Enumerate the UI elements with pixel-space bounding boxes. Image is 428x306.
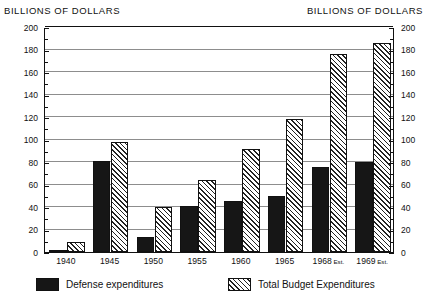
- y-axis-label-left-120: 120: [0, 114, 38, 123]
- tick-left-10: [44, 242, 48, 243]
- tick-left-80: [44, 163, 49, 164]
- bar-total-budget-1940: [67, 242, 85, 252]
- x-axis-label-1950: 1950: [132, 257, 176, 266]
- plot-area: [44, 28, 394, 253]
- legend-swatch-total-budget-icon: [228, 278, 251, 291]
- tick-left-160: [44, 73, 49, 74]
- y-axis-label-left-80: 80: [0, 159, 38, 168]
- tick-left-20: [44, 231, 49, 232]
- tick-left-30: [44, 219, 48, 220]
- tick-right-180: [389, 51, 394, 52]
- y-axis-label-left-160: 160: [0, 69, 38, 78]
- legend-item-defense: Defense expenditures: [36, 278, 163, 291]
- y-axis-label-right-160: 160: [401, 69, 415, 78]
- tick-left-0: [44, 253, 49, 254]
- bar-total-budget-1965: [286, 119, 304, 252]
- x-axis-label-1955: 1955: [175, 257, 219, 266]
- y-axis-label-right-120: 120: [401, 114, 415, 123]
- x-axis-label-1960: 1960: [219, 257, 263, 266]
- legend-label-total-budget: Total Budget Expenditures: [258, 279, 375, 290]
- tick-right-200: [389, 28, 394, 29]
- bar-defense-1960: [224, 201, 242, 252]
- tick-left-50: [44, 197, 48, 198]
- tick-left-180: [44, 51, 49, 52]
- tick-left-70: [44, 174, 48, 175]
- tick-left-190: [44, 39, 48, 40]
- bar-total-budget-1960: [242, 149, 260, 253]
- y-axis-label-right-0: 0: [401, 249, 406, 258]
- bar-defense-1945: [93, 161, 111, 252]
- y-axis-label-right-100: 100: [401, 136, 415, 145]
- gridline-180: [45, 49, 393, 50]
- y-axis-label-left-100: 100: [0, 136, 38, 145]
- y-axis-label-left-0: 0: [0, 249, 38, 258]
- x-axis-label-1968: 1968 Est.: [307, 257, 351, 266]
- bar-total-budget-1950: [155, 207, 173, 252]
- tick-right-110: [390, 129, 394, 130]
- y-axis-label-right-20: 20: [401, 226, 410, 235]
- y-axis-label-right-80: 80: [401, 159, 410, 168]
- legend-label-defense: Defense expenditures: [66, 279, 163, 290]
- bar-defense-1968-est.: [312, 167, 330, 253]
- y-axis-label-right-60: 60: [401, 181, 410, 190]
- y-axis-label-right-40: 40: [401, 204, 410, 213]
- y-axis-label-left-140: 140: [0, 91, 38, 100]
- tick-left-150: [44, 84, 48, 85]
- tick-right-30: [390, 219, 394, 220]
- y-axis-label-left-200: 200: [0, 24, 38, 33]
- chart-title-left: BILLIONS OF DOLLARS: [4, 5, 120, 16]
- x-axis-label-1965: 1965: [263, 257, 307, 266]
- bar-total-budget-1945: [111, 142, 129, 252]
- bar-defense-1965: [268, 196, 286, 252]
- y-axis-label-right-200: 200: [401, 24, 415, 33]
- tick-right-40: [389, 208, 394, 209]
- bar-total-budget-1955: [198, 180, 216, 252]
- y-axis-label-left-180: 180: [0, 46, 38, 55]
- tick-right-50: [390, 197, 394, 198]
- tick-right-130: [390, 107, 394, 108]
- tick-right-160: [389, 73, 394, 74]
- tick-right-0: [389, 253, 394, 254]
- chart-title-right: BILLIONS OF DOLLARS: [307, 5, 423, 16]
- tick-left-170: [44, 62, 48, 63]
- bar-defense-1950: [137, 237, 155, 252]
- billions-of-dollars-bar-chart: BILLIONS OF DOLLARS BILLIONS OF DOLLARS …: [0, 0, 428, 306]
- legend-item-total-budget: Total Budget Expenditures: [228, 278, 375, 291]
- y-axis-label-right-180: 180: [401, 46, 415, 55]
- bar-defense-1955: [180, 206, 198, 252]
- tick-right-60: [389, 186, 394, 187]
- x-axis-label-1969: 1969 Est.: [350, 257, 394, 266]
- tick-right-20: [389, 231, 394, 232]
- tick-right-70: [390, 174, 394, 175]
- tick-left-110: [44, 129, 48, 130]
- gridline-200: [45, 26, 393, 27]
- tick-left-60: [44, 186, 49, 187]
- tick-left-40: [44, 208, 49, 209]
- tick-right-170: [390, 62, 394, 63]
- tick-right-80: [389, 163, 394, 164]
- y-axis-label-left-40: 40: [0, 204, 38, 213]
- tick-right-190: [390, 39, 394, 40]
- tick-right-140: [389, 96, 394, 97]
- tick-left-130: [44, 107, 48, 108]
- y-axis-label-right-140: 140: [401, 91, 415, 100]
- x-axis-label-1945: 1945: [88, 257, 132, 266]
- tick-right-150: [390, 84, 394, 85]
- tick-right-10: [390, 242, 394, 243]
- legend-swatch-defense-icon: [36, 278, 59, 291]
- tick-left-200: [44, 28, 49, 29]
- tick-left-100: [44, 141, 49, 142]
- tick-left-120: [44, 118, 49, 119]
- bar-total-budget-1968-est.: [330, 54, 348, 252]
- tick-right-100: [389, 141, 394, 142]
- tick-left-140: [44, 96, 49, 97]
- y-axis-label-left-20: 20: [0, 226, 38, 235]
- bar-total-budget-1969-est.: [373, 43, 391, 252]
- bar-defense-1940: [49, 250, 67, 252]
- x-axis-label-1940: 1940: [44, 257, 88, 266]
- bar-defense-1969-est.: [355, 162, 373, 252]
- tick-right-120: [389, 118, 394, 119]
- y-axis-label-left-60: 60: [0, 181, 38, 190]
- tick-left-90: [44, 152, 48, 153]
- tick-right-90: [390, 152, 394, 153]
